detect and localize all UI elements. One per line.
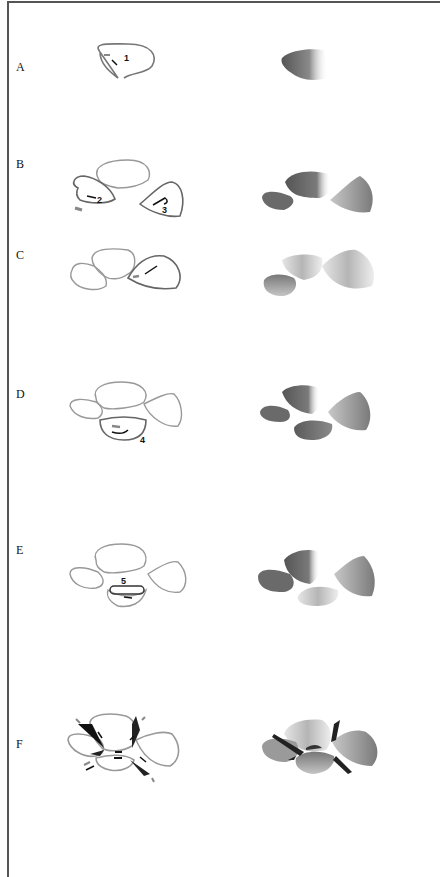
sketch-e: 5 (70, 544, 186, 606)
sketch-number-3: 3 (162, 205, 167, 215)
sketch-d: 4 (70, 382, 181, 445)
render-a (281, 49, 328, 80)
sketch-c (71, 249, 180, 290)
render-f (262, 720, 377, 774)
render-b (262, 172, 373, 213)
figure-graphics: 1 2 3 4 (0, 0, 440, 877)
sketch-number-2: 2 (97, 195, 102, 205)
sketch-number-5: 5 (121, 576, 126, 586)
render-d (260, 385, 370, 440)
sketch-f (68, 714, 179, 782)
sketch-a: 1 (98, 44, 154, 78)
sketch-b: 2 3 (74, 160, 183, 216)
sketch-number-4: 4 (140, 435, 145, 445)
sketch-number-1: 1 (124, 53, 129, 63)
render-e (258, 550, 375, 606)
render-c (264, 250, 374, 296)
